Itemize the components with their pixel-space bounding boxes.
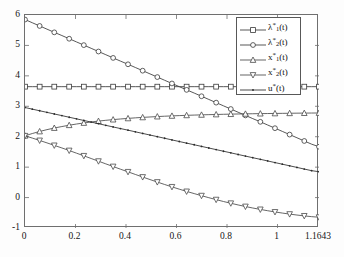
marker-circle: [111, 56, 116, 61]
marker-dot: [127, 129, 129, 131]
marker-circle: [184, 87, 189, 92]
marker-dot: [68, 116, 70, 118]
legend-item-x2[interactable]: x*2(t): [237, 65, 300, 80]
marker-dot: [53, 113, 55, 115]
legend-label-x1: x*1(t): [267, 52, 288, 63]
marker-dot: [46, 111, 48, 113]
marker-dot: [39, 110, 41, 112]
marker-dot: [259, 158, 261, 160]
chart-figure: -10123456 00.20.40.60.811.1643 λ*1(t)λ*2…: [0, 0, 344, 257]
marker-circle: [81, 43, 86, 48]
marker-dot: [83, 120, 85, 122]
marker-dot: [142, 133, 144, 135]
marker-square: [155, 84, 160, 89]
marker-square: [52, 84, 57, 89]
marker-square: [214, 84, 219, 89]
marker-circle: [52, 30, 57, 35]
marker-dot: [252, 89, 254, 91]
marker-dot: [303, 168, 305, 170]
legend-label-lambda2: λ*2(t): [267, 37, 288, 48]
legend-item-lambda1[interactable]: λ*1(t): [237, 20, 300, 35]
y-tick-label: 2: [0, 131, 20, 141]
marker-circle: [251, 42, 256, 47]
marker-dot: [76, 118, 78, 120]
marker-circle: [67, 36, 72, 41]
marker-dot: [112, 126, 114, 128]
y-tick-label: 0: [0, 192, 20, 202]
marker-circle: [96, 49, 101, 54]
marker-square: [96, 84, 101, 89]
legend-item-lambda2[interactable]: λ*2(t): [237, 35, 300, 50]
marker-square: [81, 84, 86, 89]
marker-triangle-down: [316, 215, 319, 220]
x-tick-label: 0.2: [69, 231, 81, 241]
x-tick-label: 0: [22, 231, 27, 241]
marker-dot: [296, 167, 298, 169]
marker-square: [111, 84, 116, 89]
legend: λ*1(t)λ*2(t)x*1(t)x*2(t)u*(t): [236, 17, 301, 95]
marker-circle: [302, 139, 307, 144]
marker-square: [126, 84, 131, 89]
marker-dot: [230, 152, 232, 154]
legend-label-u: u*(t): [267, 83, 285, 93]
marker-circle: [199, 94, 204, 99]
y-tick-label: -1: [0, 222, 20, 232]
marker-dot: [105, 124, 107, 126]
marker-square: [228, 84, 233, 89]
marker-dot: [215, 149, 217, 151]
legend-marker-square-icon: [239, 22, 267, 34]
series-x2: [25, 133, 319, 220]
marker-square: [302, 84, 307, 89]
marker-circle: [317, 144, 319, 149]
marker-dot: [61, 115, 63, 117]
marker-circle: [170, 81, 175, 86]
legend-label-lambda1: λ*1(t): [267, 22, 288, 33]
marker-square: [251, 27, 256, 32]
marker-circle: [273, 126, 278, 131]
marker-dot: [267, 160, 269, 162]
legend-label-x2: x*2(t): [267, 67, 288, 78]
marker-dot: [120, 128, 122, 130]
marker-dot: [186, 142, 188, 144]
legend-item-x1[interactable]: x*1(t): [237, 50, 300, 65]
legend-marker-circle-icon: [239, 37, 267, 49]
marker-dot: [237, 154, 239, 156]
marker-dot: [156, 136, 158, 138]
x-tick-label: 1.1643: [305, 231, 331, 241]
y-tick-label: 4: [0, 70, 20, 80]
marker-dot: [208, 147, 210, 149]
marker-square: [140, 84, 145, 89]
y-tick-label: 6: [0, 9, 20, 19]
x-tick-label: 0.6: [170, 231, 182, 241]
legend-item-u[interactable]: u*(t): [237, 80, 300, 95]
y-tick-label: 1: [0, 161, 20, 171]
marker-circle: [126, 62, 131, 67]
y-tick-label: 3: [0, 100, 20, 110]
marker-circle: [25, 17, 27, 22]
marker-dot: [164, 137, 166, 139]
marker-dot: [245, 155, 247, 157]
marker-circle: [258, 119, 263, 124]
y-tick-label: 5: [0, 39, 20, 49]
x-tick-label: 1: [274, 231, 279, 241]
x-tick-label: 0.4: [119, 231, 131, 241]
marker-dot: [252, 157, 254, 159]
series-x1: [25, 110, 319, 138]
marker-dot: [90, 121, 92, 123]
marker-dot: [274, 162, 276, 164]
marker-dot: [289, 165, 291, 167]
marker-dot: [134, 131, 136, 133]
marker-circle: [155, 75, 160, 80]
marker-dot: [318, 171, 319, 173]
marker-square: [317, 84, 319, 89]
marker-circle: [140, 68, 145, 73]
marker-dot: [149, 134, 151, 136]
marker-dot: [223, 150, 225, 152]
legend-marker-triangle-down-icon: [239, 67, 267, 79]
marker-circle: [287, 132, 292, 137]
marker-dot: [311, 170, 313, 172]
marker-square: [37, 84, 42, 89]
marker-dot: [201, 145, 203, 147]
marker-dot: [281, 163, 283, 165]
legend-marker-triangle-up-icon: [239, 52, 267, 64]
